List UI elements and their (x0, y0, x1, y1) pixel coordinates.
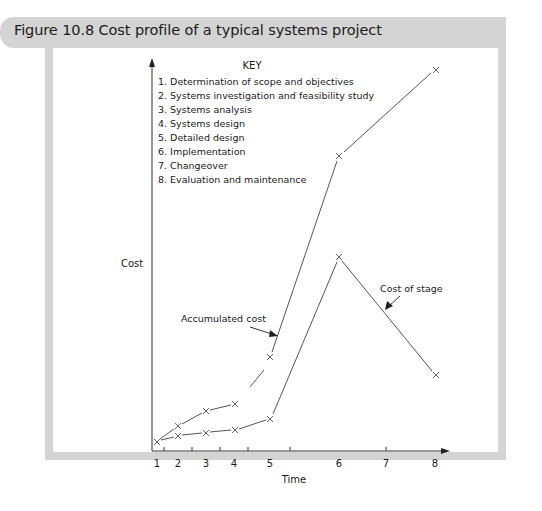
marker-x-icon (154, 439, 160, 445)
x-axis-label: Time (281, 474, 306, 485)
cost-of-stage-label: Cost of stage (380, 283, 443, 294)
x-tick-label: 6 (336, 458, 342, 469)
x-tick-label: 7 (383, 458, 389, 469)
marker-x-icon (433, 67, 439, 73)
marker-x-icon (336, 254, 342, 260)
arrowhead-icon (385, 301, 393, 310)
marker-x-icon (175, 433, 181, 439)
x-tick-label: 8 (432, 458, 438, 469)
accumulated-cost-label: Accumulated cost (181, 313, 266, 324)
key: KEY 1. Determination of scope and object… (158, 60, 375, 185)
y-axis-arrow-icon (149, 58, 155, 67)
key-item: 7. Changeover (158, 160, 228, 171)
cost-profile-chart: 1 2 3 4 5 6 7 8 Time Cost KEY 1. Determi… (0, 0, 542, 511)
x-tick-labels: 1 2 3 4 5 6 7 8 (154, 458, 438, 469)
x-axis-arrow-icon (441, 448, 450, 454)
marker-x-icon (336, 153, 342, 159)
marker-x-icon (203, 430, 209, 436)
key-item: 6. Implementation (158, 146, 246, 157)
key-title: KEY (243, 60, 263, 71)
marker-x-icon (433, 372, 439, 378)
y-axis-label: Cost (121, 258, 143, 269)
marker-x-icon (232, 427, 238, 433)
key-item: 1. Determination of scope and objectives (158, 76, 354, 87)
key-item: 4. Systems design (158, 118, 245, 129)
marker-x-icon (203, 408, 209, 414)
key-item: 3. Systems analysis (158, 104, 252, 115)
x-tick-label: 4 (231, 458, 237, 469)
marker-x-icon (232, 401, 238, 407)
marker-x-icon (267, 416, 273, 422)
x-tick-label: 5 (267, 458, 273, 469)
key-item: 2. Systems investigation and feasibility… (158, 90, 375, 101)
marker-x-icon (267, 354, 273, 360)
marker-x-icon (175, 423, 181, 429)
x-ticks (164, 447, 386, 451)
x-tick-label: 3 (203, 458, 209, 469)
x-tick-label: 1 (154, 458, 160, 469)
key-item: 5. Detailed design (158, 132, 244, 143)
arrowhead-icon (269, 330, 278, 337)
key-item: 8. Evaluation and maintenance (158, 174, 307, 185)
x-tick-label: 2 (175, 458, 181, 469)
